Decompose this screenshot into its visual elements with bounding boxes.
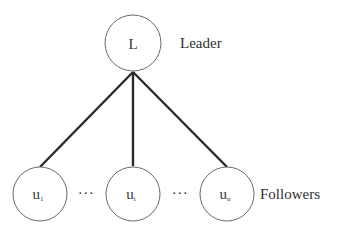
follower-node-1: u1 [13,167,67,221]
leader-node: L [105,15,161,71]
edge-leader-to-follower-n [133,72,227,167]
follower-circle-1 [13,167,67,221]
follower-node-n: un [200,167,254,221]
ellipsis-1: ··· [78,185,95,201]
edge-leader-to-follower-1 [40,72,133,167]
leader-follower-diagram: L Leader u1 ··· ui ··· un Followers [0,0,348,230]
leader-node-label: L [128,36,137,52]
leader-role-label: Leader [180,35,222,51]
followers-role-label: Followers [260,186,320,202]
follower-node-i: ui [106,167,160,221]
edges [40,72,227,167]
ellipsis-2: ··· [172,185,189,201]
follower-circle-n [200,167,254,221]
